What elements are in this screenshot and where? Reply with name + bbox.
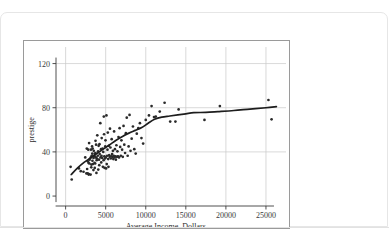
data-point [91,152,94,155]
data-point [105,114,108,117]
data-point [87,148,90,151]
data-point [94,162,97,165]
data-point [89,173,92,176]
x-axis-ticks: 0500010000150002000025000 [64,206,276,220]
data-point [154,115,157,118]
data-point [95,143,98,146]
data-point [203,119,206,122]
data-point [94,140,97,143]
data-point [95,172,98,175]
data-point [96,134,99,137]
y-tick-label: 80 [42,104,50,113]
data-point [79,170,82,173]
data-point [98,164,101,167]
data-point [110,138,113,141]
data-point [129,149,132,152]
data-point [100,161,103,164]
y-tick-label: 40 [42,148,50,157]
data-point [123,143,126,146]
data-point [169,120,172,123]
data-point [121,156,124,159]
data-point [105,167,108,170]
data-point [92,149,95,152]
data-point [99,122,102,125]
x-axis: 0500010000150002000025000 Average Income… [56,206,276,228]
y-tick-label: 120 [38,60,50,69]
lowess-smoother-line [71,107,276,175]
data-point [142,142,145,145]
data-point [127,145,130,148]
data-point [69,165,72,168]
data-point [106,148,109,151]
data-point [144,119,147,122]
data-point [103,133,106,136]
scatter-plot-svg: 0500010000150002000025000 Average Income… [24,41,289,228]
data-point [158,110,161,113]
data-point [106,131,109,134]
data-point [148,114,151,117]
data-point [102,115,105,118]
data-point [122,125,125,128]
data-point [98,158,101,161]
data-point [150,105,153,108]
data-point [105,163,108,166]
data-point [128,114,131,117]
data-point [82,170,85,173]
y-axis-title: prestige [27,117,36,143]
data-point [163,101,166,104]
data-point [130,137,133,140]
data-point [115,144,118,147]
data-point [139,122,142,125]
data-point [116,150,119,153]
x-tick-label: 25000 [256,211,276,220]
data-point [113,130,116,133]
chart-figure: 0500010000150002000025000 Average Income… [23,40,290,229]
data-point [101,157,104,160]
data-point [267,99,270,102]
data-point [93,167,96,170]
data-point [109,146,112,149]
data-point [121,148,124,151]
data-point [174,120,177,123]
data-point [107,165,110,168]
x-tick-label: 0 [64,211,68,220]
data-point [100,137,103,140]
data-point [126,154,129,157]
data-point [118,127,121,130]
data-point [124,152,127,155]
data-point [84,156,87,159]
y-tick-label: 0 [46,192,50,201]
data-point [270,118,273,121]
data-point [119,146,122,149]
x-tick-label: 10000 [136,211,156,220]
data-point [177,108,180,111]
footer-note [250,235,380,242]
data-point [88,142,91,145]
data-point [219,105,222,108]
y-axis-ticks: 04080120 [38,60,56,202]
data-point [115,158,118,161]
data-point [114,148,117,151]
data-point [86,168,89,171]
footer-divider [0,227,389,228]
x-tick-label: 5000 [98,211,114,220]
data-point [125,116,128,119]
x-tick-label: 15000 [176,211,196,220]
page-card: 0500010000150002000025000 Average Income… [0,12,388,227]
data-point [133,148,136,151]
data-point [132,125,135,128]
data-point [109,127,112,130]
data-point [140,137,143,140]
data-point [70,178,73,181]
data-point [102,151,105,154]
data-point [98,143,101,146]
data-point [134,152,137,155]
data-point [90,166,93,169]
data-point [97,168,100,171]
gridlines [56,47,286,206]
data-points [69,99,273,181]
data-point [107,158,110,161]
x-tick-label: 20000 [216,211,236,220]
data-point [104,139,107,142]
data-point [120,139,123,142]
